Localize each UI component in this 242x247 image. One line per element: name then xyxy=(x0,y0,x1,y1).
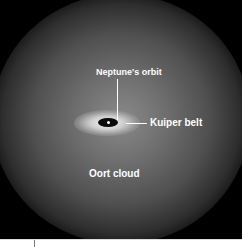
sun-icon xyxy=(107,121,110,124)
oort-cloud-diagram: Neptune's orbit Kuiper belt Oort cloud xyxy=(0,0,242,239)
kuiper-belt-leader-line xyxy=(126,123,147,124)
kuiper-belt-label: Kuiper belt xyxy=(150,117,202,128)
neptune-orbit-label: Neptune's orbit xyxy=(96,67,162,77)
bottom-tick-mark xyxy=(34,240,35,247)
oort-cloud-label: Oort cloud xyxy=(89,168,140,179)
neptune-orbit-leader-line xyxy=(117,79,118,120)
bottom-divider xyxy=(0,239,242,240)
